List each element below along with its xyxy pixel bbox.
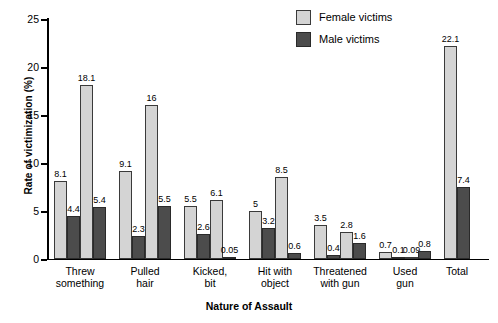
y-tick-label: 15 (9, 110, 39, 120)
y-tick-label: 0 (9, 254, 39, 264)
bar (457, 187, 470, 258)
legend-item-female: Female victims (296, 10, 392, 25)
bar (119, 171, 132, 258)
y-tick-label: 10 (9, 158, 39, 168)
plot-area: 0510152025 8.14.418.15.49.12.3165.55.52.… (47, 18, 489, 260)
bar-value-label: 1.6 (346, 232, 373, 241)
bar-series-container: 8.14.418.15.49.12.3165.55.52.66.10.0553.… (47, 19, 489, 259)
bar-value-label: 0.6 (281, 242, 308, 251)
legend-swatch-female-icon (296, 10, 311, 25)
bar (80, 85, 93, 259)
bar-value-label: 5.5 (151, 195, 178, 204)
bar (54, 181, 67, 259)
bar (392, 257, 405, 259)
bar (223, 257, 236, 259)
bar (145, 105, 158, 259)
x-category-label: Total (419, 265, 495, 277)
bar-value-label: 9.1 (112, 160, 139, 169)
bar (444, 46, 457, 258)
bar-value-label: 5.5 (177, 195, 204, 204)
bar (314, 225, 327, 259)
bar-value-label: 22.1 (437, 35, 464, 44)
x-axis-title: Nature of Assault (0, 300, 498, 312)
bar-value-label: 7.4 (450, 176, 477, 185)
bar (197, 234, 210, 259)
y-tick-mark (41, 259, 47, 261)
legend-label-male: Male victims (319, 34, 380, 45)
bar (67, 216, 80, 258)
y-tick-label: 5 (9, 206, 39, 216)
bar (418, 251, 431, 259)
bar (184, 206, 197, 259)
bar-value-label: 8.1 (47, 170, 74, 179)
bar-value-label: 3.5 (307, 214, 334, 223)
bar (262, 228, 275, 259)
bar-value-label: 8.5 (268, 166, 295, 175)
y-tick-label: 25 (9, 14, 39, 24)
legend: Female victims Male victims (296, 10, 392, 54)
bar (327, 255, 340, 259)
bar-value-label: 5 (242, 200, 269, 209)
bar-chart: Rate of victimization (%) 0510152025 8.1… (0, 0, 498, 323)
bar (353, 243, 366, 258)
bar-value-label: 6.1 (203, 189, 230, 198)
legend-label-female: Female victims (319, 12, 392, 23)
legend-item-male: Male victims (296, 32, 392, 47)
x-axis-line (47, 259, 489, 261)
bar (132, 236, 145, 258)
y-tick-label: 20 (9, 62, 39, 72)
bar-value-label: 2.8 (333, 221, 360, 230)
bar-value-label: 0.05 (216, 246, 243, 255)
bar-value-label: 16 (138, 94, 165, 103)
bar-value-label: 0.8 (411, 240, 438, 249)
legend-swatch-male-icon (296, 32, 311, 47)
bar-value-label: 18.1 (73, 74, 100, 83)
bar-value-label: 5.4 (86, 196, 113, 205)
bar (158, 206, 171, 259)
bar (93, 207, 106, 259)
bar (288, 253, 301, 259)
bar (405, 257, 418, 259)
